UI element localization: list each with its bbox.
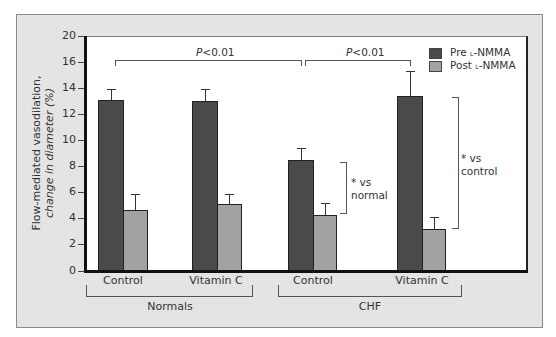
group-label-chf: CHF <box>330 300 410 313</box>
y-axis-label-line1: Flow-mediated vasodilation, <box>30 43 43 263</box>
y-axis-label: Flow-mediated vasodilation, change in di… <box>30 43 60 263</box>
y-tick-label: 0 <box>54 264 76 277</box>
error-bar <box>301 148 302 160</box>
y-axis-line <box>84 36 87 272</box>
error-cap <box>406 71 415 72</box>
error-bar <box>434 217 435 229</box>
bar-normals-control-pre <box>98 100 124 271</box>
error-cap <box>297 148 306 149</box>
bar-chf-control-pre <box>288 160 314 271</box>
error-cap <box>321 203 330 204</box>
p-value-label-1: P<0.01 <box>196 46 235 58</box>
error-cap <box>131 194 140 195</box>
legend-label-post: Post L-NMMA <box>450 59 516 71</box>
bar-normals-vitc-pre <box>192 101 218 271</box>
error-cap <box>430 217 439 218</box>
error-cap <box>201 89 210 90</box>
error-cap <box>107 89 116 90</box>
error-bar <box>229 194 230 204</box>
bar-normals-control-post <box>123 210 148 271</box>
legend-label-pre: Pre L-NMMA <box>450 46 510 58</box>
error-bar <box>111 89 112 100</box>
vs-control-label: * vs control <box>461 152 497 178</box>
error-bar <box>410 71 411 96</box>
x-axis-line <box>84 270 528 273</box>
bar-chf-control-post <box>313 215 337 271</box>
error-cap <box>225 194 234 195</box>
p-value-label-2: P<0.01 <box>346 46 385 58</box>
y-tick-label: 20 <box>54 29 76 42</box>
x-label-chf-vitc: Vitamin C <box>386 274 458 287</box>
bar-normals-vitc-post <box>217 204 242 271</box>
error-bar <box>135 194 136 210</box>
x-label-chf-control: Control <box>283 274 343 287</box>
bar-chf-vitc-post <box>422 229 446 271</box>
legend-swatch-pre <box>429 48 442 59</box>
x-label-normals-vitc: Vitamin C <box>180 274 252 287</box>
bar-chf-vitc-pre <box>397 96 423 271</box>
x-label-normals-control: Control <box>93 274 153 287</box>
error-bar <box>325 203 326 215</box>
vs-normal-label: * vs normal <box>351 176 388 202</box>
y-axis-label-line2: change in diameter (%) <box>43 43 56 263</box>
error-bar <box>205 89 206 101</box>
group-label-normals: Normals <box>130 300 210 313</box>
legend-swatch-post <box>429 61 442 72</box>
